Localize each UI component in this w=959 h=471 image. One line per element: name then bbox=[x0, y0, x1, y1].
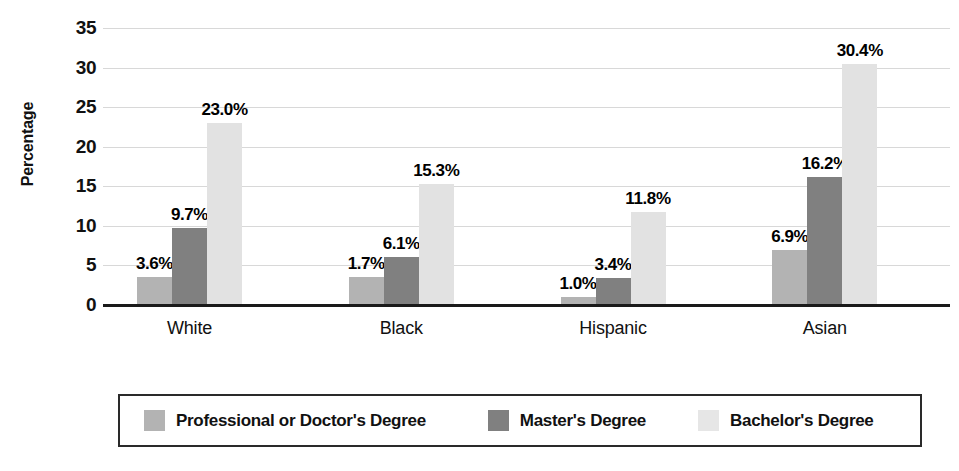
bar-group: 1.7%6.1%15.3% bbox=[349, 28, 454, 305]
plot-area: 3.6%9.7%23.0%1.7%6.1%15.3%1.0%3.4%11.8%6… bbox=[103, 28, 950, 305]
y-axis-tick-label: 25 bbox=[52, 96, 96, 118]
chart-legend: Professional or Doctor's DegreeMaster's … bbox=[118, 394, 922, 447]
x-axis-category-label: Black bbox=[311, 318, 491, 339]
legend-swatch bbox=[488, 410, 509, 431]
bar-value-label: 23.0% bbox=[192, 100, 258, 120]
y-axis-title: Percentage bbox=[19, 64, 37, 224]
x-axis-category-label: Asian bbox=[735, 318, 915, 339]
legend-item[interactable]: Master's Degree bbox=[488, 410, 646, 431]
legend-swatch bbox=[698, 410, 719, 431]
bar[interactable] bbox=[384, 257, 419, 305]
bar[interactable] bbox=[172, 228, 207, 305]
bar[interactable] bbox=[631, 212, 666, 305]
bar-group: 3.6%9.7%23.0% bbox=[137, 28, 242, 305]
x-axis-category-label: Hispanic bbox=[523, 318, 703, 339]
bar[interactable] bbox=[772, 250, 807, 305]
bar-value-label: 11.8% bbox=[615, 189, 681, 209]
legend-item[interactable]: Professional or Doctor's Degree bbox=[144, 410, 426, 431]
legend-swatch bbox=[144, 410, 165, 431]
y-axis-tick-label: 0 bbox=[52, 294, 96, 316]
bar-value-label: 30.4% bbox=[827, 41, 893, 61]
bar-group: 1.0%3.4%11.8% bbox=[561, 28, 666, 305]
legend-label: Bachelor's Degree bbox=[730, 411, 874, 431]
bar[interactable] bbox=[807, 177, 842, 305]
bar-value-label: 15.3% bbox=[403, 161, 469, 181]
bar[interactable] bbox=[349, 277, 384, 305]
legend-label: Professional or Doctor's Degree bbox=[176, 411, 426, 431]
y-axis-tick-label: 20 bbox=[52, 136, 96, 158]
x-axis-category-label: White bbox=[100, 318, 280, 339]
legend-label: Master's Degree bbox=[520, 411, 646, 431]
bar[interactable] bbox=[137, 277, 172, 305]
y-axis-tick-label: 35 bbox=[52, 17, 96, 39]
bar[interactable] bbox=[596, 278, 631, 305]
bar[interactable] bbox=[419, 184, 454, 305]
bar-chart: Percentage 05101520253035 3.6%9.7%23.0%1… bbox=[0, 0, 959, 471]
y-axis-tick-label: 15 bbox=[52, 175, 96, 197]
bar-group: 6.9%16.2%30.4% bbox=[772, 28, 877, 305]
bar[interactable] bbox=[207, 123, 242, 305]
bar[interactable] bbox=[842, 64, 877, 305]
y-axis-tick-label: 10 bbox=[52, 215, 96, 237]
legend-item[interactable]: Bachelor's Degree bbox=[698, 410, 874, 431]
x-axis-line bbox=[103, 304, 950, 307]
y-axis-tick-label: 30 bbox=[52, 57, 96, 79]
y-axis-tick-label: 5 bbox=[52, 254, 96, 276]
